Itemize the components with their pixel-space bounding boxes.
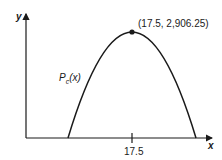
peak-label: (17.5, 2,906.25) xyxy=(138,18,209,29)
x-axis-label: x xyxy=(207,140,214,151)
parabola-chart: y x (17.5, 2,906.25) 17.5 Pc(x) xyxy=(0,0,222,160)
curve-label: Pc(x) xyxy=(59,72,81,85)
curve-label-arg: (x) xyxy=(69,72,81,83)
tick-label: 17.5 xyxy=(124,146,144,157)
y-axis-label: y xyxy=(15,11,22,22)
profit-curve xyxy=(68,32,196,138)
vertex-point xyxy=(129,29,134,34)
